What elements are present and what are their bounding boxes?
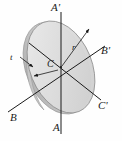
disk-axes-figure: A' A B' B C' C t r (0, 0, 122, 141)
figure-canvas (0, 0, 122, 141)
axis-label-c-prime: C' (98, 100, 108, 111)
radius-label: r (72, 43, 76, 52)
thickness-label: t (10, 53, 13, 62)
center-point (60, 66, 62, 68)
axis-label-a-prime: A' (51, 2, 60, 13)
axis-label-b-prime: B' (101, 45, 110, 56)
center-label: C (47, 59, 54, 69)
axis-label-b: B (10, 112, 17, 123)
axis-label-a: A (53, 122, 60, 133)
